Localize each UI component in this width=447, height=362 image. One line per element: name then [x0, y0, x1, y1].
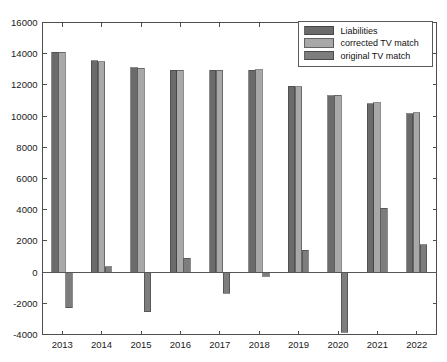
bar — [138, 68, 144, 272]
legend-item: corrected TV match — [305, 38, 419, 48]
bar — [210, 70, 216, 272]
legend-swatch — [305, 51, 334, 60]
bar — [105, 267, 111, 272]
bar — [295, 87, 301, 272]
bar — [302, 250, 308, 272]
x-tick-label: 2014 — [91, 339, 112, 350]
y-tick-label: 4000 — [16, 204, 37, 215]
y-tick-label: 10000 — [11, 111, 37, 122]
y-tick-label: 12000 — [11, 79, 37, 90]
legend-swatch — [305, 26, 334, 35]
y-tick-label: -4000 — [13, 329, 37, 340]
legend-label: corrected TV match — [341, 38, 419, 48]
bar — [52, 52, 58, 272]
bar — [328, 96, 334, 272]
y-tick-label: -2000 — [13, 298, 37, 309]
y-tick-label: 14000 — [11, 48, 37, 59]
legend-swatch — [305, 39, 334, 48]
bar — [249, 70, 255, 272]
x-tick-label: 2015 — [130, 339, 151, 350]
bar — [256, 70, 262, 272]
x-tick-label: 2019 — [288, 339, 309, 350]
bar — [374, 103, 380, 272]
bar-chart: -4000-2000020004000600080001000012000140… — [0, 0, 447, 362]
x-tick-label: 2022 — [406, 339, 427, 350]
y-tick-label: 16000 — [11, 17, 37, 28]
chart-canvas: -4000-2000020004000600080001000012000140… — [0, 0, 447, 362]
x-tick-label: 2021 — [367, 339, 388, 350]
bar — [381, 208, 387, 272]
bar — [216, 70, 222, 272]
legend-item: original TV match — [305, 51, 411, 61]
y-tick-label: 0 — [32, 267, 37, 278]
bar — [420, 245, 426, 272]
bar — [288, 86, 294, 272]
x-tick-label: 2016 — [170, 339, 191, 350]
bar — [341, 272, 347, 332]
bar — [59, 52, 65, 272]
bar — [413, 113, 419, 272]
bar — [223, 272, 229, 293]
bar — [367, 104, 373, 272]
bar — [98, 62, 104, 273]
bar — [335, 95, 341, 272]
y-tick-label: 6000 — [16, 173, 37, 184]
chart-legend: Liabilitiescorrected TV matchoriginal TV… — [299, 22, 433, 67]
bar — [177, 70, 183, 272]
x-tick-label: 2013 — [52, 339, 73, 350]
bar — [184, 258, 190, 272]
bar — [144, 272, 150, 312]
legend-label: Liabilities — [341, 26, 379, 36]
x-tick-label: 2017 — [209, 339, 230, 350]
x-tick-label: 2018 — [249, 339, 270, 350]
legend-item: Liabilities — [305, 26, 379, 36]
y-tick-label: 8000 — [16, 142, 37, 153]
legend-label: original TV match — [341, 51, 411, 61]
bar — [131, 68, 137, 272]
bar — [263, 272, 269, 276]
bar — [407, 114, 413, 272]
bar — [91, 61, 97, 272]
bar — [170, 70, 176, 272]
bar — [66, 272, 72, 308]
y-tick-label: 2000 — [16, 235, 37, 246]
x-tick-label: 2020 — [327, 339, 348, 350]
